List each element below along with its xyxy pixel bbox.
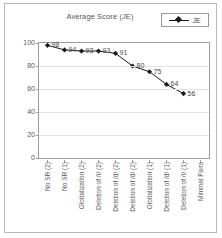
gridline: [39, 135, 209, 136]
chart-title: Average Score (JE): [45, 12, 155, 21]
data-point-marker: [45, 43, 50, 48]
gridline: [39, 112, 209, 113]
y-tick-label: 100: [13, 39, 35, 46]
x-tick-label-slot: Minimal Pairs: [193, 160, 207, 236]
x-tick-label: Deletion of /t/ (1): [179, 162, 186, 210]
y-tick-label: 80: [13, 62, 35, 69]
x-tick-label: Deletion of /t/ (2): [94, 162, 101, 210]
data-point-marker: [62, 47, 67, 52]
y-tickmark: [36, 43, 39, 44]
data-point-marker: [181, 91, 186, 96]
y-tick-label: 20: [13, 131, 35, 138]
x-tick-label-slot: Deletion of /d/ (1): [159, 160, 173, 236]
x-tick-label-slot: No SR (1): [57, 160, 71, 236]
data-point-marker: [96, 48, 101, 53]
x-tick-label: No SR (2): [43, 162, 50, 191]
x-axis: No SR (2)No SR (1)Glottalization (2)Dele…: [38, 160, 210, 236]
y-tickmark: [36, 135, 39, 136]
x-tick-label-slot: Deletion of /t/ (1): [176, 160, 190, 236]
x-tick-label-slot: Deletion of /d/ (2): [125, 160, 139, 236]
x-tick-label-slot: No SR (2): [40, 160, 54, 236]
plot-area: 989493939180756456: [38, 42, 210, 159]
legend-line-marker-icon: [169, 16, 189, 24]
y-axis: 100806040200: [10, 42, 35, 159]
legend-label: JE: [192, 17, 200, 24]
data-point-label: 94: [69, 45, 77, 52]
x-tick-label: Deletion of /d/ (2): [128, 162, 135, 212]
chart-frame: Average Score (JE) JE 100806040200 98949…: [4, 3, 217, 233]
gridline: [39, 89, 209, 90]
y-tickmark: [36, 158, 39, 159]
chart-legend: JE: [161, 13, 209, 27]
data-point-label: 93: [103, 47, 111, 54]
y-tick-label: 40: [13, 108, 35, 115]
y-tickmark: [36, 66, 39, 67]
series-je: [39, 43, 209, 158]
data-point-label: 64: [171, 80, 179, 87]
data-point-label: 80: [137, 62, 145, 69]
x-tick-label-slot: Deletion of /t/ (2): [91, 160, 105, 236]
x-tick-label: Deletion of /d/ (1): [162, 162, 169, 212]
y-tickmark: [36, 89, 39, 90]
x-tick-label: Glottalization (2): [77, 162, 84, 209]
x-tick-label: No SR (1): [60, 162, 67, 191]
data-point-label: 98: [52, 41, 60, 48]
x-tick-label-slot: Glottalization (2): [74, 160, 88, 236]
data-point-marker: [79, 48, 84, 53]
y-tickmark: [36, 112, 39, 113]
data-point-label: 93: [86, 47, 94, 54]
x-tick-label-slot: Deletion of /d/ (2): [108, 160, 122, 236]
gridline: [39, 66, 209, 67]
x-tick-label: Minimal Pairs: [196, 162, 203, 201]
data-point-label: 56: [188, 89, 196, 96]
y-tick-label: 60: [13, 85, 35, 92]
data-point-label: 75: [154, 67, 162, 74]
x-tick-label: Glottalization (1): [145, 162, 152, 209]
x-tick-label: Deletion of /d/ (2): [111, 162, 118, 212]
legend-entry-je: JE: [162, 14, 208, 26]
y-tick-label: 0: [13, 154, 35, 161]
data-point-label: 91: [120, 49, 128, 56]
x-tick-label-slot: Glottalization (1): [142, 160, 156, 236]
